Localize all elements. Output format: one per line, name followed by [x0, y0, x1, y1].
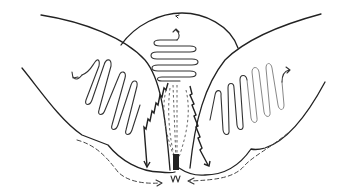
- center-dashed-line-4: [178, 90, 188, 160]
- outer-dashed-arrow-right: [190, 133, 288, 181]
- zigzag-arrow-right-down-icon: [190, 86, 208, 165]
- right-lobe-outline-lower: [179, 82, 325, 175]
- right-vertical-zigzag-dark: [210, 76, 247, 135]
- right-lobe-outline-upper: [190, 14, 321, 168]
- top-horizontal-zigzag: [151, 40, 198, 81]
- diagram-canvas: [0, 0, 344, 193]
- center-dark-mark: [173, 154, 179, 170]
- curved-arrow-up-icon: [173, 29, 179, 40]
- curved-arrow-left-icon: [72, 72, 82, 79]
- curved-arrow-right-icon: [282, 67, 290, 82]
- left-lobe-outline-lower: [22, 68, 175, 173]
- diagram-svg: [0, 0, 344, 193]
- center-bottom-arrows: [171, 176, 180, 182]
- outer-dashed-arrow-left: [77, 140, 160, 183]
- zigzag-arrow-left-down-icon: [144, 83, 168, 166]
- left-vertical-zigzag: [82, 60, 140, 135]
- top-tick-mark: [176, 15, 179, 18]
- center-dashed-line-1: [173, 85, 176, 160]
- left-lobe-outline-upper: [41, 15, 170, 170]
- top-lobe-outline: [121, 13, 238, 48]
- right-vertical-zigzag-light: [247, 64, 284, 123]
